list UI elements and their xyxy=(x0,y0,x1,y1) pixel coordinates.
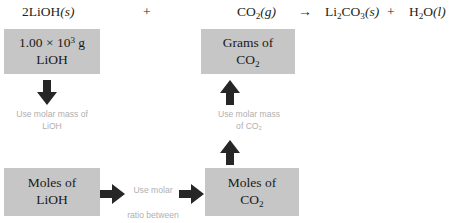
moles-lioh-label: Moles of xyxy=(28,175,76,190)
equation-reactant-co2: CO2(g) xyxy=(237,4,276,20)
arrow-down-grams-to-moles-lioh xyxy=(36,80,58,106)
box-grams-lioh: 1.00 × 103 g LiOH xyxy=(4,29,100,74)
equation-product-li2co3: Li2CO3(s) xyxy=(325,4,379,20)
arrow-up-moles-to-grams-co2-lower xyxy=(219,140,241,166)
equation-yields-arrow: → xyxy=(298,4,312,20)
equation-product-h2o: H2O(l) xyxy=(409,4,446,20)
box-moles-lioh-text: Moles of LiOH xyxy=(28,175,76,209)
grams-co2-subscript: 2 xyxy=(255,58,260,68)
equation-plus-1: + xyxy=(143,4,151,20)
co2-formula: CO xyxy=(237,4,256,19)
grams-lioh-unit: g xyxy=(75,35,85,50)
molar-ratio-line1: Use molar xyxy=(133,185,172,195)
li2co3-state: (s) xyxy=(365,4,379,19)
box-grams-co2: Grams of CO2 xyxy=(201,29,295,74)
box-moles-lioh: Moles of LiOH xyxy=(4,168,100,216)
moles-co2-label: Moles of xyxy=(228,175,276,190)
arrow-right-ratio-to-moles-co2 xyxy=(179,183,205,205)
caption-molar-mass-co2: Use molar mass of CO₂ xyxy=(193,108,305,133)
arrow-up-moles-to-grams-co2-upper xyxy=(219,80,241,106)
h2o-state: (l) xyxy=(433,4,446,19)
lioh-coefficient: 2 xyxy=(22,4,29,19)
chemical-equation: 2LiOH(s) + CO2(g) → Li2CO3(s) + H2O(l) xyxy=(0,4,451,26)
li2co3-part2: CO xyxy=(342,4,361,19)
caption-molar-mass-lioh: Use molar mass of LiOH xyxy=(2,108,102,133)
arrow-right-moles-lioh-to-ratio xyxy=(100,183,126,205)
molar-ratio-line2: ratio between xyxy=(127,210,179,220)
moles-co2-species: CO xyxy=(240,192,259,207)
equation-reactant-lioh: 2LiOH(s) xyxy=(22,4,75,20)
box-grams-lioh-text: 1.00 × 103 g LiOH xyxy=(19,35,85,69)
lioh-formula: LiOH xyxy=(29,4,61,19)
box-moles-co2: Moles of CO2 xyxy=(205,168,299,216)
moles-lioh-species: LiOH xyxy=(36,192,68,207)
li2co3-part1: Li xyxy=(325,4,337,19)
lioh-state: (s) xyxy=(60,4,74,19)
grams-lioh-value: 1.00 × 10 xyxy=(19,35,71,50)
h2o-part1: H xyxy=(409,4,419,19)
equation-plus-2: + xyxy=(387,4,395,20)
h2o-part2: O xyxy=(423,4,433,19)
grams-co2-label: Grams of xyxy=(223,35,274,50)
grams-lioh-species: LiOH xyxy=(36,52,68,67)
grams-co2-species: CO xyxy=(236,52,255,67)
moles-co2-subscript: 2 xyxy=(259,199,264,209)
co2-state: (g) xyxy=(260,4,276,19)
box-grams-co2-text: Grams of CO2 xyxy=(223,35,274,69)
box-moles-co2-text: Moles of CO2 xyxy=(228,175,276,209)
